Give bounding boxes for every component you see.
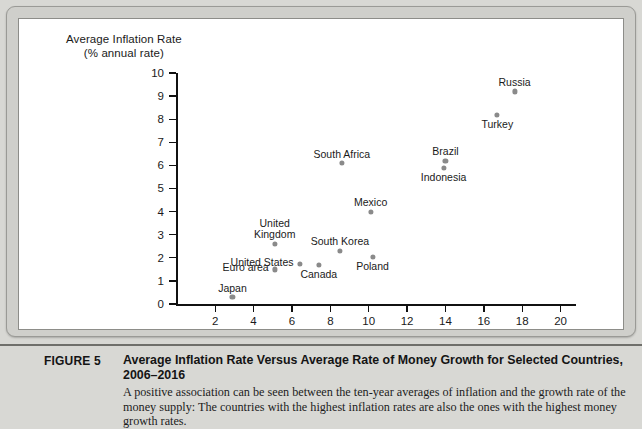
- x-tick-label-10: 10: [362, 315, 375, 327]
- x-tick-label-12: 12: [401, 315, 414, 327]
- x-tick-4: 4: [253, 305, 254, 312]
- plot-panel: Average Inflation Rate (% annual rate) 0…: [18, 18, 624, 330]
- x-tick-12: 12: [406, 305, 407, 312]
- figure-description: A positive association can be seen betwe…: [123, 385, 628, 429]
- data-point-label-turkey: Turkey: [481, 119, 513, 131]
- data-point-label-brazil: Brazil: [432, 146, 458, 158]
- y-tick-10: 10: [169, 72, 176, 73]
- figure-frame: Average Inflation Rate (% annual rate) 0…: [6, 6, 636, 337]
- data-point-south-africa: [339, 160, 344, 165]
- y-tick-3: 3: [169, 234, 176, 235]
- x-axis-line: [176, 304, 576, 306]
- data-point-label-south-korea: South Korea: [311, 236, 369, 248]
- x-tick-2: 2: [215, 305, 216, 312]
- figure-title: Average Inflation Rate Versus Average Ra…: [123, 353, 628, 383]
- figure-caption-block: FIGURE 5 Average Inflation Rate Versus A…: [0, 344, 642, 414]
- data-point-label-united-states: United States: [231, 257, 294, 269]
- x-tick-20: 20: [560, 305, 561, 312]
- x-tick-6: 6: [291, 305, 292, 312]
- data-point-label-poland: Poland: [356, 261, 389, 273]
- scatter-chart: Average Inflation Rate (% annual rate) 0…: [19, 19, 623, 329]
- y-tick-label-0: 0: [158, 298, 164, 310]
- x-tick-label-6: 6: [289, 315, 295, 327]
- x-tick-label-20: 20: [554, 315, 567, 327]
- y-tick-7: 7: [169, 142, 176, 143]
- y-tick-label-6: 6: [158, 159, 164, 171]
- y-tick-8: 8: [169, 119, 176, 120]
- data-point-turkey: [495, 112, 500, 117]
- data-point-label-indonesia: Indonesia: [421, 172, 467, 184]
- y-tick-label-1: 1: [158, 275, 164, 287]
- x-tick-14: 14: [445, 305, 446, 312]
- data-point-united-kingdom: [272, 241, 277, 246]
- data-point-mexico: [368, 209, 373, 214]
- y-tick-label-7: 7: [158, 136, 164, 148]
- data-point-russia: [512, 89, 517, 94]
- x-tick-18: 18: [522, 305, 523, 312]
- data-point-indonesia: [441, 165, 446, 170]
- data-point-brazil: [443, 158, 448, 163]
- y-tick-label-2: 2: [158, 252, 164, 264]
- x-tick-label-2: 2: [212, 315, 218, 327]
- data-point-south-korea: [337, 248, 342, 253]
- y-axis-title: Average Inflation Rate (% annual rate): [66, 32, 182, 60]
- y-tick-5: 5: [169, 188, 176, 189]
- y-tick-label-9: 9: [158, 90, 164, 102]
- figure-number-label: FIGURE 5: [44, 354, 101, 368]
- y-tick-label-10: 10: [151, 67, 164, 79]
- y-tick-9: 9: [169, 95, 176, 96]
- y-tick-label-5: 5: [158, 182, 164, 194]
- data-point-poland: [370, 254, 375, 259]
- x-tick-label-18: 18: [516, 315, 529, 327]
- y-tick-2: 2: [169, 257, 176, 258]
- y-tick-4: 4: [169, 211, 176, 212]
- data-point-canada: [316, 262, 321, 267]
- y-axis-line: [176, 73, 178, 305]
- y-tick-0: 0: [169, 303, 176, 304]
- data-point-label-south-africa: South Africa: [314, 149, 371, 161]
- y-tick-1: 1: [169, 280, 176, 281]
- x-tick-10: 10: [368, 305, 369, 312]
- y-axis-title-line1: Average Inflation Rate: [66, 32, 182, 46]
- x-tick-label-16: 16: [477, 315, 490, 327]
- data-point-label-japan: Japan: [218, 283, 247, 295]
- x-tick-8: 8: [330, 305, 331, 312]
- data-point-label-russia: Russia: [499, 77, 531, 89]
- data-point-united-states: [297, 261, 302, 266]
- y-tick-label-3: 3: [158, 229, 164, 241]
- y-axis-title-line2: (% annual rate): [66, 46, 182, 60]
- y-tick-label-4: 4: [158, 206, 164, 218]
- data-point-label-united-kingdom: United Kingdom: [254, 218, 295, 241]
- x-tick-label-4: 4: [250, 315, 256, 327]
- x-tick-label-8: 8: [327, 315, 333, 327]
- x-tick-16: 16: [483, 305, 484, 312]
- data-point-japan: [230, 294, 235, 299]
- data-point-label-canada: Canada: [300, 269, 337, 281]
- data-point-label-mexico: Mexico: [354, 197, 387, 209]
- caption-divider: [0, 344, 642, 346]
- x-tick-label-14: 14: [439, 315, 452, 327]
- y-tick-6: 6: [169, 165, 176, 166]
- y-tick-label-8: 8: [158, 113, 164, 125]
